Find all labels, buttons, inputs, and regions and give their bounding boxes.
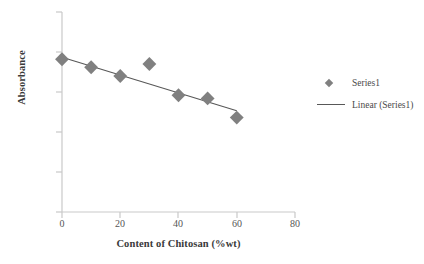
- legend-item-series1: Series1: [316, 72, 420, 94]
- line-swatch-icon: [316, 98, 346, 112]
- x-tick-marks: [62, 212, 295, 218]
- data-point: [113, 69, 127, 83]
- data-point: [84, 60, 98, 74]
- chart-container: Absorbance 0.25 0.2 0.15 0.1 0.05 0 0 20…: [0, 0, 424, 264]
- chart-legend: Series1 Linear (Series1): [316, 72, 420, 116]
- diamond-marker-icon: [316, 76, 346, 90]
- data-point-markers: [55, 52, 244, 124]
- legend-label-series1: Series1: [346, 78, 380, 88]
- data-point: [172, 88, 186, 102]
- legend-label-linear-series1: Linear (Series1): [346, 100, 413, 110]
- plot-svg: [0, 0, 424, 264]
- data-point: [55, 52, 69, 66]
- legend-item-linear-series1: Linear (Series1): [316, 94, 420, 116]
- y-tick-marks: [56, 12, 62, 212]
- data-point: [230, 111, 244, 125]
- data-point: [142, 57, 156, 71]
- plot-area: [62, 12, 295, 212]
